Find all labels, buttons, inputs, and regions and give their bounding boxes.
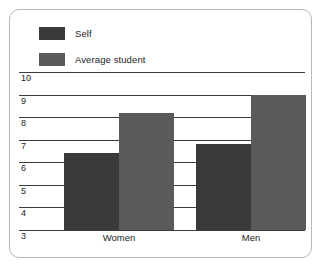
bar-men-self (196, 144, 251, 230)
bar-women-self (64, 153, 119, 230)
chart-card: Self Average student 109876543 WomenMen (9, 9, 312, 258)
legend-label-average-student: Average student (75, 54, 146, 65)
bar-series-group (19, 72, 305, 230)
legend-swatch-self (39, 27, 65, 40)
plot-area: 109876543 (19, 72, 305, 230)
chart-legend: Self Average student (39, 23, 259, 75)
gridline-3 (19, 230, 305, 231)
legend-swatch-average-student (39, 53, 65, 66)
x-axis-category-labels: WomenMen (19, 232, 305, 252)
legend-label-self: Self (75, 28, 92, 39)
bar-women-average-student (119, 113, 174, 230)
legend-item-average-student: Average student (39, 49, 259, 69)
bar-men-average-student (251, 95, 306, 230)
x-tick-label-women: Women (103, 232, 136, 243)
legend-item-self: Self (39, 23, 259, 43)
x-tick-label-men: Men (242, 232, 260, 243)
